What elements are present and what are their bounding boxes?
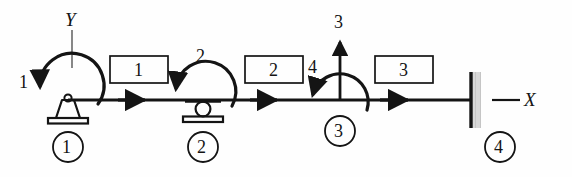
figure-canvas: Y X 1 2 3 4 1 2 3 1 2 3 4 (0, 0, 572, 177)
y-axis-label: Y (65, 10, 76, 29)
node-4-label: 4 (494, 138, 503, 156)
node-2-label: 2 (197, 138, 206, 156)
node-3-label: 3 (334, 122, 343, 140)
dof-1-label: 1 (19, 73, 28, 91)
dof-4-label: 4 (308, 58, 317, 76)
node-2-roller-support (183, 102, 223, 123)
dof-2-label: 2 (196, 47, 205, 65)
beam-diagram-svg (0, 0, 572, 177)
x-axis-label: X (524, 90, 536, 109)
node-4-fixed-support (471, 72, 481, 128)
element-3-label: 3 (399, 61, 408, 79)
dof-3-label: 3 (334, 13, 343, 31)
node-circles (53, 116, 515, 162)
node-1-label: 1 (62, 138, 71, 156)
element-1-label: 1 (134, 61, 143, 79)
element-2-label: 2 (269, 61, 278, 79)
